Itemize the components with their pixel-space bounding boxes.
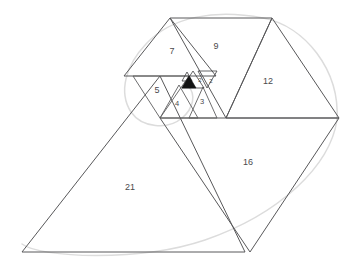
triangle-16 <box>160 118 339 252</box>
label-21: 21 <box>125 182 135 192</box>
triangle-5 <box>133 76 189 118</box>
label-9: 9 <box>213 41 218 51</box>
label-12: 12 <box>263 76 273 86</box>
spiral-arc-outer <box>22 120 337 256</box>
spiral-arc-inner <box>131 86 193 126</box>
label-3: 3 <box>200 97 204 106</box>
triangle-9 <box>170 18 272 118</box>
outer-triangles-group <box>22 18 339 252</box>
triangle-spiral-figure: 21 16 12 9 7 5 4 3 2 2 <box>0 0 358 270</box>
label-5: 5 <box>154 85 159 95</box>
triangle-21 <box>22 76 245 252</box>
triangle-12 <box>226 18 339 118</box>
spiral-arc-group <box>22 14 337 255</box>
figure-canvas: 21 16 12 9 7 5 4 3 2 2 <box>0 0 358 270</box>
label-4: 4 <box>175 99 179 108</box>
label-16: 16 <box>243 157 253 167</box>
label-7: 7 <box>169 46 174 56</box>
